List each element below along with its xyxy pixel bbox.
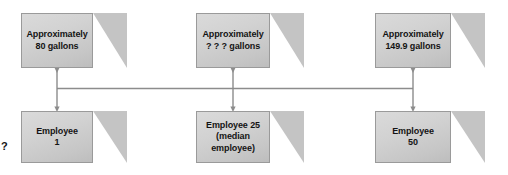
node-label: Employee 25 (median employee) (197, 120, 269, 155)
folded-corner-icon (93, 13, 127, 68)
node-label: Employee 50 (389, 126, 437, 149)
node-approx-149-9-gallons: Approximately 149.9 gallons (375, 13, 451, 68)
folded-corner-icon (451, 13, 485, 68)
node-label: Approximately 80 gallons (23, 29, 90, 52)
folded-corner-icon (451, 111, 485, 163)
node-face: Approximately 149.9 gallons (375, 13, 451, 68)
node-employee-50: Employee 50 (375, 111, 451, 163)
stray-question-mark: ? (1, 140, 8, 152)
node-face: Employee 50 (375, 111, 451, 163)
node-employee-1: Employee 1 (21, 111, 93, 163)
node-face: Employee 25 (median employee) (196, 111, 270, 163)
node-label: Approximately ? ? ? gallons (199, 29, 266, 52)
node-approx-unknown-gallons: Approximately ? ? ? gallons (196, 13, 270, 68)
node-label: Employee 1 (33, 126, 81, 149)
folded-corner-icon (93, 111, 127, 163)
node-face: Approximately ? ? ? gallons (196, 13, 270, 68)
flow-diagram: Approximately 80 gallons Approximately ?… (0, 0, 508, 175)
folded-corner-icon (270, 111, 304, 163)
folded-corner-icon (270, 13, 304, 68)
node-face: Employee 1 (21, 111, 93, 163)
node-face: Approximately 80 gallons (21, 13, 93, 68)
node-label: Approximately 149.9 gallons (379, 29, 446, 52)
node-approx-80-gallons: Approximately 80 gallons (21, 13, 93, 68)
node-employee-25-median: Employee 25 (median employee) (196, 111, 270, 163)
